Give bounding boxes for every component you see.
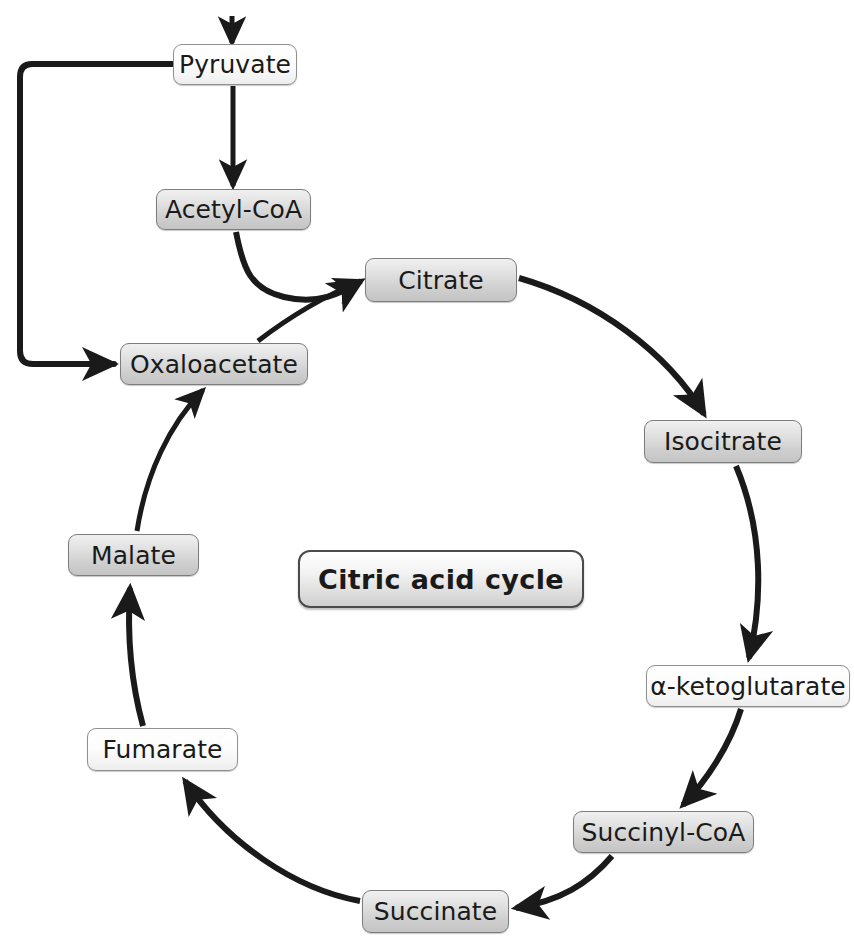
edge-fumarate-to-malate <box>129 588 143 726</box>
edge-succinate-to-fumarate <box>185 781 360 901</box>
citric-acid-cycle-diagram: Pyruvate Acetyl-CoA Citrate Isocitrate α… <box>0 0 854 940</box>
node-succinate[interactable]: Succinate <box>362 890 509 933</box>
node-oxaloacetate-label: Oxaloacetate <box>130 352 298 377</box>
edge-succinyl-coa-to-succinate <box>516 856 612 908</box>
node-isocitrate[interactable]: Isocitrate <box>644 420 802 463</box>
node-acetyl-coa[interactable]: Acetyl-CoA <box>156 189 311 230</box>
node-acetyl-coa-label: Acetyl-CoA <box>165 197 302 222</box>
edge-pyruvate-to-oxaloacetate <box>20 64 172 364</box>
node-pyruvate-label: Pyruvate <box>179 52 291 77</box>
node-oxaloacetate[interactable]: Oxaloacetate <box>120 343 308 385</box>
node-pyruvate[interactable]: Pyruvate <box>173 44 297 85</box>
cycle-center-label: Citric acid cycle <box>298 550 584 608</box>
node-succinyl-coa-label: Succinyl-CoA <box>582 820 746 845</box>
cycle-center-label-text: Citric acid cycle <box>318 566 564 593</box>
node-citrate-label: Citrate <box>398 268 484 293</box>
node-citrate[interactable]: Citrate <box>365 258 517 302</box>
node-alpha-ketoglutarate[interactable]: α-ketoglutarate <box>646 665 850 707</box>
node-fumarate[interactable]: Fumarate <box>87 728 238 771</box>
edge-oxaloacetate-to-citrate <box>258 281 361 341</box>
edge-malate-to-oxaloacetate <box>137 390 203 531</box>
node-malate[interactable]: Malate <box>68 534 199 576</box>
node-isocitrate-label: Isocitrate <box>664 429 782 454</box>
node-fumarate-label: Fumarate <box>102 737 222 762</box>
node-malate-label: Malate <box>91 543 176 568</box>
edge-isocitrate-to-ketoglutarate <box>736 466 758 658</box>
node-alpha-ketoglutarate-label: α-ketoglutarate <box>650 674 846 699</box>
node-succinyl-coa[interactable]: Succinyl-CoA <box>573 811 754 853</box>
edge-ketoglutarate-to-succinyl-coa <box>683 709 741 805</box>
node-succinate-label: Succinate <box>374 899 497 924</box>
arrow-layer <box>0 0 854 940</box>
edge-citrate-to-isocitrate <box>519 278 704 414</box>
